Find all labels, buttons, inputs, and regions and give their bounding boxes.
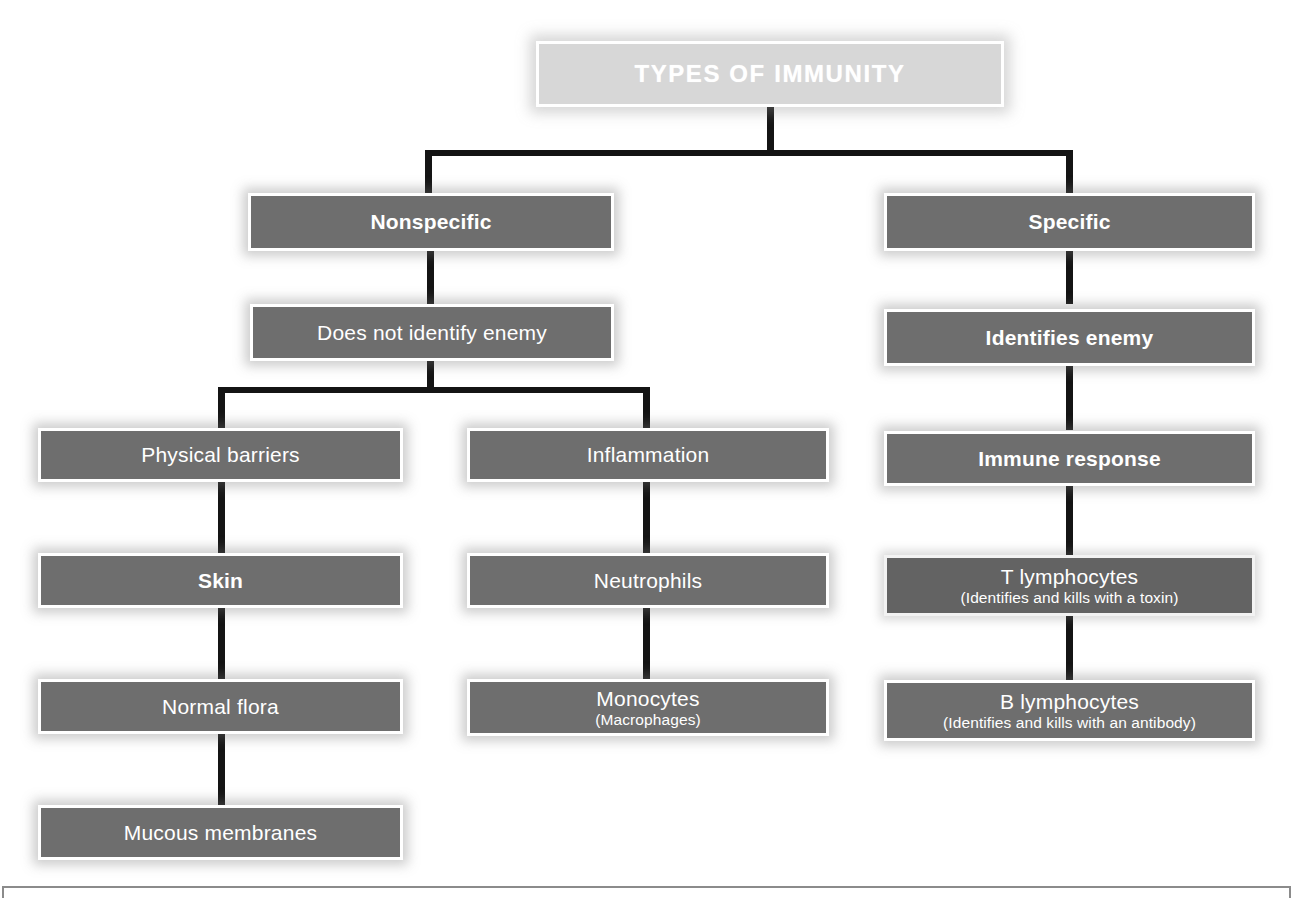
node-b-lymphocytes: B lymphocytes (Identifies and kills with… bbox=[884, 680, 1255, 741]
node-immune-response-label: Immune response bbox=[978, 447, 1161, 471]
node-neutrophils-label: Neutrophils bbox=[594, 569, 702, 593]
connector-root-horizontal bbox=[425, 150, 1073, 156]
connector-inflammation-to-neutrophils bbox=[643, 481, 650, 554]
connector-t-to-b-lymphocytes bbox=[1066, 615, 1073, 681]
node-specific: Specific bbox=[884, 193, 1255, 251]
node-does-not-identify-enemy-label: Does not identify enemy bbox=[317, 321, 547, 345]
connector-normal-flora-to-mucous bbox=[218, 733, 225, 806]
node-title-label: TYPES OF IMMUNITY bbox=[634, 61, 905, 88]
node-inflammation: Inflammation bbox=[467, 428, 829, 482]
node-mucous-membranes-label: Mucous membranes bbox=[124, 821, 317, 845]
node-normal-flora-label: Normal flora bbox=[162, 695, 279, 719]
connector-root-to-specific bbox=[1066, 150, 1073, 194]
node-physical-barriers: Physical barriers bbox=[38, 428, 403, 482]
node-inflammation-label: Inflammation bbox=[587, 443, 710, 467]
node-t-lymphocytes-sublabel: (Identifies and kills with a toxin) bbox=[960, 589, 1178, 606]
node-t-lymphocytes: T lymphocytes (Identifies and kills with… bbox=[884, 555, 1255, 616]
connector-nonspecific-split-bar bbox=[218, 387, 650, 393]
connector-split-to-inflammation bbox=[643, 387, 650, 429]
node-title: TYPES OF IMMUNITY bbox=[536, 41, 1004, 107]
connector-neutrophils-to-monocytes bbox=[643, 607, 650, 680]
node-b-lymphocytes-sublabel: (Identifies and kills with an antibody) bbox=[943, 714, 1196, 731]
node-does-not-identify-enemy: Does not identify enemy bbox=[250, 304, 614, 361]
node-physical-barriers-label: Physical barriers bbox=[141, 443, 300, 467]
node-skin-label: Skin bbox=[198, 569, 243, 593]
node-neutrophils: Neutrophils bbox=[467, 553, 829, 608]
connector-root-to-nonspecific bbox=[425, 150, 432, 194]
node-identifies-enemy-label: Identifies enemy bbox=[986, 326, 1154, 350]
node-monocytes: Monocytes (Macrophages) bbox=[467, 679, 829, 736]
page-frame-rule bbox=[2, 886, 1291, 898]
node-monocytes-label: Monocytes bbox=[596, 687, 699, 711]
connector-identifies-to-immune-response bbox=[1066, 366, 1073, 430]
node-identifies-enemy: Identifies enemy bbox=[884, 309, 1255, 366]
immunity-flowchart: TYPES OF IMMUNITY Nonspecific Does not i… bbox=[0, 0, 1293, 898]
node-skin: Skin bbox=[38, 553, 403, 608]
node-mucous-membranes: Mucous membranes bbox=[38, 805, 403, 860]
connector-split-to-physical-barriers bbox=[218, 387, 225, 429]
node-nonspecific-label: Nonspecific bbox=[370, 210, 491, 234]
node-specific-label: Specific bbox=[1028, 210, 1110, 234]
connector-physical-barriers-to-skin bbox=[218, 481, 225, 554]
node-b-lymphocytes-label: B lymphocytes bbox=[1000, 690, 1139, 714]
node-normal-flora: Normal flora bbox=[38, 679, 403, 734]
node-nonspecific: Nonspecific bbox=[248, 193, 614, 251]
connector-nonspecific-to-definition bbox=[427, 250, 434, 304]
node-immune-response: Immune response bbox=[884, 431, 1255, 486]
connector-specific-to-definition bbox=[1066, 250, 1073, 304]
node-monocytes-sublabel: (Macrophages) bbox=[595, 711, 701, 728]
connector-root-stem bbox=[767, 105, 774, 153]
node-t-lymphocytes-label: T lymphocytes bbox=[1001, 565, 1139, 589]
connector-skin-to-normal-flora bbox=[218, 607, 225, 680]
connector-immune-response-to-t-lymphocytes bbox=[1066, 485, 1073, 555]
